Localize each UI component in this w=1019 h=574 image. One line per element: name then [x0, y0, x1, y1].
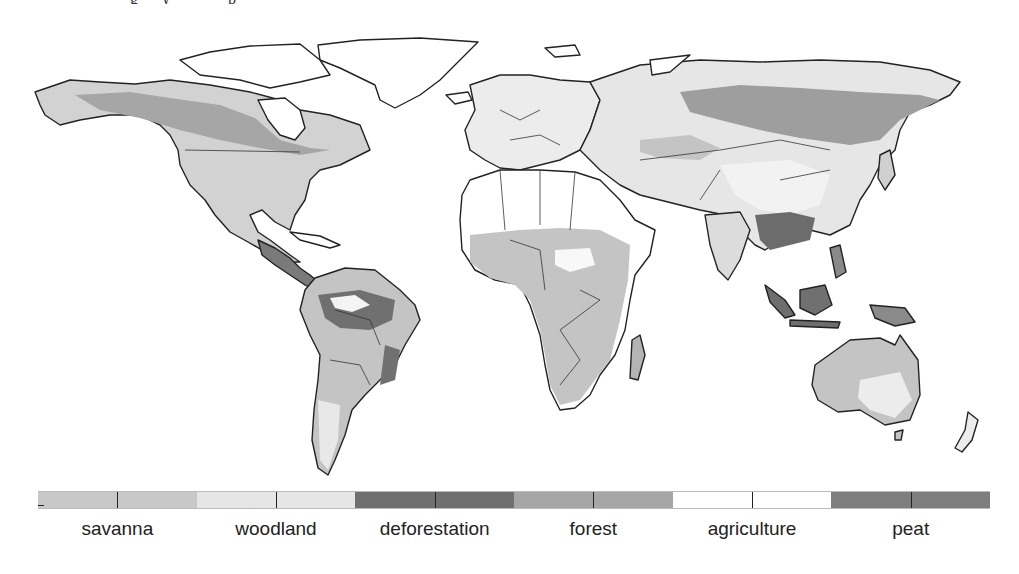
- world-map: [0, 0, 1019, 482]
- japan: [878, 150, 895, 190]
- tasmania: [895, 430, 903, 440]
- new-zealand: [955, 412, 978, 452]
- legend-swatch-deforestation: [355, 492, 514, 508]
- legend-swatch-peat: [831, 492, 990, 508]
- legend-labels: savanna woodland deforestation forest ag…: [38, 518, 990, 540]
- iceland: [446, 92, 472, 104]
- madagascar: [630, 335, 645, 380]
- legend-swatch-forest: [514, 492, 673, 508]
- java: [790, 320, 840, 328]
- legend-tick: [752, 492, 753, 508]
- legend-swatch-savanna: [38, 492, 197, 508]
- legend-tick: [435, 492, 436, 508]
- svalbard: [545, 45, 580, 57]
- europe: [465, 75, 600, 170]
- legend-colorbar: [38, 491, 990, 509]
- caribbean-islands: [290, 232, 340, 248]
- new-guinea: [870, 305, 915, 326]
- legend-corner-tick: [38, 505, 44, 506]
- legend-label-deforestation: deforestation: [355, 518, 514, 540]
- legend-label-forest: forest: [514, 518, 673, 540]
- arctic-islands: [180, 44, 330, 88]
- legend-swatch-woodland: [197, 492, 356, 508]
- legend-tick: [911, 492, 912, 508]
- legend-label-peat: peat: [831, 518, 990, 540]
- legend-tick: [276, 492, 277, 508]
- sumatra: [765, 285, 795, 318]
- borneo: [800, 285, 832, 315]
- legend-tick: [117, 492, 118, 508]
- patagonia: [318, 400, 340, 470]
- legend-tick: [593, 492, 594, 508]
- legend-label-agriculture: agriculture: [673, 518, 832, 540]
- africa-savanna: [470, 228, 630, 405]
- philippines: [830, 245, 846, 278]
- legend-label-savanna: savanna: [38, 518, 197, 540]
- india: [705, 212, 750, 280]
- legend-label-woodland: woodland: [197, 518, 356, 540]
- legend-swatch-agriculture: [673, 492, 832, 508]
